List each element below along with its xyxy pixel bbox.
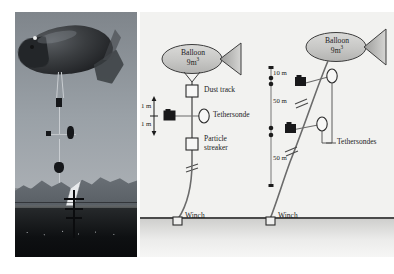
left-winch-label: Winch	[185, 212, 205, 220]
right-balloon-volume: 9m	[331, 46, 341, 55]
left-balloon-label: Balloon 9m3	[165, 49, 221, 66]
axis-tick-50m-lower: 50 m	[273, 154, 287, 161]
blimp-marker-dark	[30, 45, 34, 49]
figure-root: Balloon 9m3 1 m 1 m Dust track Tetherson…	[0, 0, 394, 274]
tethersondes-label: Tethersondes	[337, 138, 376, 146]
right-setup-group	[266, 29, 386, 225]
axis-tick-10m: 10 m	[273, 69, 287, 76]
utility-pole-crossarm-2	[65, 208, 83, 210]
photo-tether-mid	[59, 107, 60, 135]
utility-pole-crossarm-1	[64, 198, 84, 200]
particle-streaker-label-line2: streaker	[204, 144, 228, 152]
photo-payload-bottom	[54, 162, 64, 173]
right-winch-label: Winch	[278, 212, 298, 220]
particle-streaker-label-line1: Particle	[204, 135, 227, 143]
right-balloon-name: Balloon	[325, 36, 349, 45]
left-setup-group	[150, 43, 241, 225]
scale-label-1m-lower: 1 m	[141, 120, 151, 127]
axis-tick-50m-upper: 50 m	[273, 97, 287, 104]
right-balloon-volume-exponent: 3	[341, 44, 344, 50]
blimp-marker-light	[33, 36, 37, 40]
tethered-blimp-photograph	[15, 12, 137, 257]
schematic-panel: Balloon 9m3 1 m 1 m Dust track Tetherson…	[140, 12, 394, 257]
photo-tethersonde	[67, 126, 74, 139]
altitude-axis-group	[269, 66, 274, 187]
left-balloon-volume: 9m	[187, 58, 197, 67]
distant-city-lights	[15, 223, 137, 243]
left-balloon-name: Balloon	[181, 48, 205, 57]
right-balloon-label: Balloon 9m3	[309, 37, 365, 54]
photo-sensor-left	[46, 131, 51, 136]
dust-track-label: Dust track	[204, 86, 235, 94]
left-balloon-volume-exponent: 3	[197, 56, 200, 62]
utility-pole-crossarm-3	[66, 217, 82, 219]
power-line	[15, 202, 137, 203]
photo-payload-top	[56, 98, 62, 107]
scale-label-1m-upper: 1 m	[141, 102, 151, 109]
tethersonde-label: Tethersonde	[213, 111, 250, 119]
